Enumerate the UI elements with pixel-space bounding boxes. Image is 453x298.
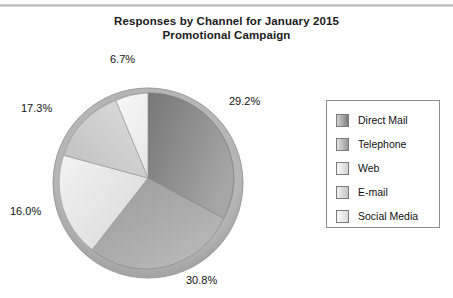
chart-legend: Direct Mail Telephone Web E-mail Social …	[326, 100, 440, 228]
legend-swatch-icon	[336, 186, 349, 199]
pie-label-telephone: 30.8%	[186, 274, 217, 286]
pie-label-direct-mail: 29.2%	[229, 95, 260, 107]
legend-label: Direct Mail	[358, 114, 408, 126]
legend-label: E-mail	[358, 186, 388, 198]
legend-item-email[interactable]: E-mail	[327, 180, 439, 204]
legend-item-social-media[interactable]: Social Media	[327, 204, 439, 228]
legend-swatch-icon	[336, 162, 349, 175]
legend-item-direct-mail[interactable]: Direct Mail	[327, 108, 439, 132]
legend-swatch-icon	[336, 114, 349, 127]
pie-label-social-media: 6.7%	[110, 53, 135, 65]
pie-svg	[45, 75, 255, 285]
pie-label-email: 17.3%	[21, 102, 52, 114]
pie-slices	[59, 93, 234, 269]
legend-label: Telephone	[358, 138, 406, 150]
legend-swatch-icon	[336, 138, 349, 151]
legend-item-web[interactable]: Web	[327, 156, 439, 180]
pie-label-web: 16.0%	[10, 205, 41, 217]
legend-item-telephone[interactable]: Telephone	[327, 132, 439, 156]
pie-chart-figure: Responses by Channel for January 2015 Pr…	[0, 0, 453, 298]
chart-title: Responses by Channel for January 2015 Pr…	[0, 14, 453, 42]
pie-plot-area	[45, 75, 255, 285]
page-top-rule	[0, 4, 453, 7]
legend-label: Web	[358, 162, 379, 174]
legend-label: Social Media	[358, 210, 418, 222]
chart-title-line-1: Responses by Channel for January 2015	[0, 14, 453, 28]
legend-swatch-icon	[336, 210, 349, 223]
chart-title-line-2: Promotional Campaign	[0, 28, 453, 42]
